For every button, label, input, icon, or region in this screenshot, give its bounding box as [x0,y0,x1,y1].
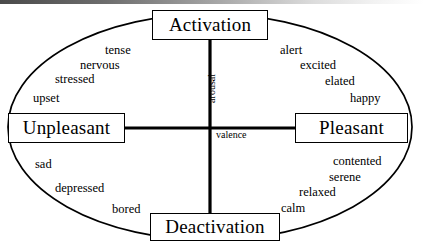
affect-term-relaxed: relaxed [299,186,336,199]
pole-label-pleasant: Pleasant [295,113,408,143]
affect-term-serene: serene [329,171,361,184]
pole-deactivation-text: Deactivation [165,216,264,238]
axis-label-arousal: arousal [207,74,217,103]
affect-term-depressed: depressed [55,182,104,195]
pole-pleasant-text: Pleasant [319,117,384,139]
affect-term-tense: tense [105,44,131,57]
axis-label-valence: valence [216,130,247,140]
affect-term-calm: calm [281,202,305,215]
pole-activation-text: Activation [169,14,251,36]
affect-term-elated: elated [325,75,355,88]
affect-term-contented: contented [333,155,382,168]
pole-label-deactivation: Deactivation [150,213,280,241]
pole-label-activation: Activation [152,10,268,40]
affect-term-alert: alert [280,44,302,57]
affect-term-excited: excited [300,59,336,72]
affect-term-happy: happy [350,92,381,105]
affect-term-upset: upset [33,92,59,105]
affect-term-sad: sad [35,158,52,171]
pole-unpleasant-text: Unpleasant [23,117,110,139]
pole-label-unpleasant: Unpleasant [8,113,125,143]
affect-term-nervous: nervous [80,59,120,72]
affect-term-bored: bored [112,203,140,216]
affect-term-stressed: stressed [55,73,95,86]
circumplex-affect-diagram: Activation Deactivation Unpleasant Pleas… [0,0,424,252]
